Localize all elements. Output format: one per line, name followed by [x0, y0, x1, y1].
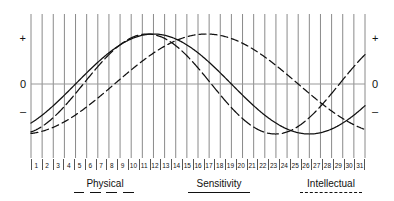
day-label: 19 [225, 159, 236, 173]
day-axis: 1234567891011121314151617181920212223242… [31, 159, 365, 173]
day-label: 29 [333, 159, 344, 173]
day-label: 28 [322, 159, 333, 173]
day-label: 3 [53, 159, 64, 173]
day-label: 12 [150, 159, 161, 173]
day-label: 25 [290, 159, 301, 173]
day-label: 18 [214, 159, 225, 173]
legend: Physical Sensitivity Intellectual [31, 178, 365, 201]
day-label: 20 [236, 159, 247, 173]
day-label: 9 [117, 159, 128, 173]
day-label: 24 [279, 159, 290, 173]
day-label: 6 [85, 159, 96, 173]
day-label: 5 [74, 159, 85, 173]
day-label: 15 [182, 159, 193, 173]
day-label: 8 [106, 159, 117, 173]
day-label: 11 [139, 159, 150, 173]
legend-item-sensitivity: Sensitivity [171, 178, 267, 193]
legend-label-intellectual: Intellectual [283, 178, 379, 190]
legend-swatch-sensitivity [188, 192, 250, 193]
axis-right-zero: 0 [372, 79, 384, 90]
legend-label-sensitivity: Sensitivity [171, 178, 267, 190]
day-label: 26 [301, 159, 312, 173]
legend-swatch-intellectual [300, 192, 362, 193]
day-label: 7 [96, 159, 107, 173]
axis-left-plus: + [14, 33, 26, 44]
day-label: 31 [354, 159, 365, 173]
legend-label-physical: Physical [57, 178, 153, 190]
legend-item-physical: Physical [57, 178, 153, 193]
axis-left-zero: 0 [14, 79, 26, 90]
day-label: 13 [160, 159, 171, 173]
day-label: 4 [63, 159, 74, 173]
day-label: 16 [193, 159, 204, 173]
legend-item-intellectual: Intellectual [283, 178, 379, 193]
axis-right-plus: + [372, 33, 384, 44]
day-label: 27 [311, 159, 322, 173]
biorhythm-chart: + 0 – + 0 – 1234567891011121314151617181… [0, 0, 394, 201]
day-label: 22 [257, 159, 268, 173]
day-label: 2 [42, 159, 53, 173]
day-label: 21 [247, 159, 258, 173]
axis-left-minus: – [14, 106, 26, 117]
day-label: 23 [268, 159, 279, 173]
day-label: 1 [31, 159, 42, 173]
legend-swatch-physical [74, 192, 136, 193]
day-label: 10 [128, 159, 139, 173]
axis-right-minus: – [372, 106, 384, 117]
day-label: 17 [204, 159, 215, 173]
day-label: 14 [171, 159, 182, 173]
day-label: 30 [344, 159, 355, 173]
